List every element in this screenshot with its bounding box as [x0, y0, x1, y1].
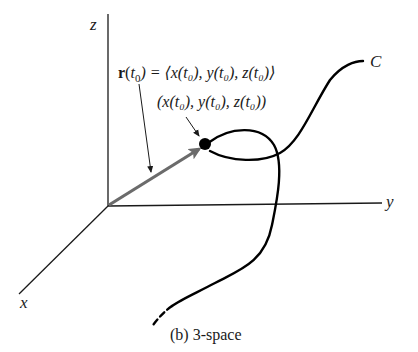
- y-axis: [108, 203, 382, 206]
- point-label-leader-arrow: [186, 117, 199, 136]
- vector-label-leader-arrow: [139, 84, 151, 172]
- x-axis: [19, 206, 108, 294]
- vector-r: r: [118, 64, 125, 81]
- position-vector-arrow: [109, 149, 199, 205]
- point-on-curve: [199, 138, 211, 150]
- axes: [19, 14, 382, 294]
- y-axis-label: y: [384, 192, 394, 211]
- figure-caption: (b) 3-space: [170, 326, 242, 344]
- point-coordinates-label: (x(t₀), y(t₀), z(t₀)): [157, 93, 266, 111]
- vector-equation-label: r(t0) = ⟨x(t₀), y(t₀), z(t₀)⟩: [118, 64, 275, 84]
- x-axis-label: x: [19, 293, 28, 312]
- curve-label-c: C: [370, 52, 382, 71]
- figure-3space: z y x C r(t0) = ⟨x(t₀), y(t₀), z(t₀)⟩ (x…: [0, 0, 418, 352]
- vector-components: ) = ⟨x(t₀), y(t₀), z(t₀)⟩: [139, 64, 275, 82]
- z-axis-label: z: [89, 15, 97, 34]
